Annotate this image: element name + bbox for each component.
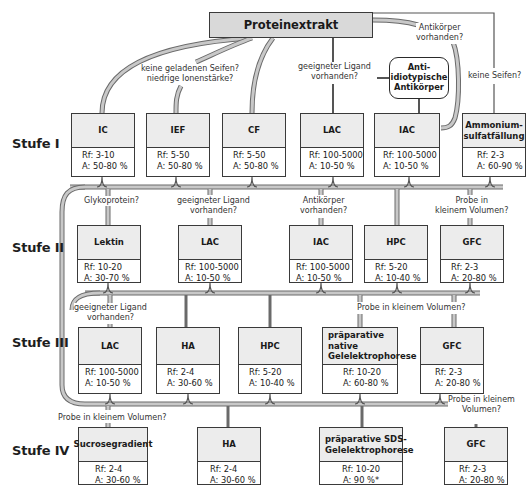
node-title: LAC <box>79 328 141 365</box>
node-rf: Rf: 100-5000 <box>383 150 439 161</box>
node-s4-ha: HA Rf: 2-4A: 30-60 % <box>197 427 261 485</box>
node-s4-gfc: GFC Rf: 2-3A: 20-80 % <box>444 427 508 485</box>
node-rf: Rf: 2-3 <box>435 367 483 378</box>
node-s1-lac: LAC Rf: 100-5000A: 10-50 % <box>300 113 364 177</box>
node-s1-ic: IC Rf: 3-10A: 50-80 % <box>71 113 135 177</box>
node-title: IAC <box>375 114 439 148</box>
node-title: IAC <box>290 226 352 260</box>
node-title: LAC <box>179 226 241 260</box>
node-rf: Rf: 100-5000 <box>185 262 241 273</box>
node-a: A: 20-80 % <box>435 378 483 389</box>
condition-lektin: Glykoprotein? <box>84 196 139 206</box>
stage-label-1: Stufe I <box>12 136 59 151</box>
condition-lac-stage3: geeigneter Ligandvorhanden? <box>74 303 147 324</box>
node-a: A: 10-40 % <box>375 273 427 284</box>
node-a: A: 10-40 % <box>249 378 301 389</box>
node-rf: Rf: 5-20 <box>249 367 301 378</box>
side-node-anti-idiotypic-antibodies: Anti- idiotypische Antikörper <box>389 57 449 99</box>
node-s2-hpc: HPC Rf: 5-20A: 10-40 % <box>364 225 428 283</box>
node-s2-lac: LAC Rf: 100-5000A: 10-50 % <box>178 225 242 283</box>
condition-ief: keine geladenen Seifen?niedrige Ionenstä… <box>141 64 239 85</box>
node-rf: Rf: 2-4 <box>95 464 147 475</box>
node-title: GFC <box>421 328 483 365</box>
node-rf: Rf: 2-4 <box>167 367 219 378</box>
node-title: IC <box>72 114 134 148</box>
condition-lac-stage1: geeigneter Ligandvorhanden? <box>298 62 371 83</box>
node-s4-sucrose-gradient: Sucrosegradient Rf: 2-4A: 30-60 % <box>78 427 148 485</box>
node-s3-ha: HA Rf: 2-4A: 30-60 % <box>156 327 220 394</box>
node-rf: Rf: 10-20 <box>320 464 402 475</box>
node-s1-cf: CF Rf: 5-50A: 50-80 % <box>222 113 286 177</box>
node-a: A: 60-90 % <box>477 161 525 172</box>
condition-native-gel: Probe in kleinem Volumen? <box>357 303 465 313</box>
purification-flow-diagram: .pipe { fill: none; stroke: #6a6a6a; str… <box>0 0 528 496</box>
node-s1-iac: IAC Rf: 100-5000A: 10-50 % <box>374 113 440 177</box>
node-s3-hpc: HPC Rf: 5-20A: 10-40 % <box>238 327 302 394</box>
node-title: Sucrosegradient <box>79 428 147 462</box>
node-a: A: 20-80 % <box>459 475 507 486</box>
node-a: A: 30-60 % <box>167 378 219 389</box>
node-a: A: 60-80 % <box>343 378 397 389</box>
condition-sucrose: Probe in kleinem Volumen? <box>58 413 166 423</box>
node-a: A: 90 %* <box>320 475 402 486</box>
node-rf: Rf: 100-5000 <box>85 367 141 378</box>
condition-iac-stage1: Antikörpervorhanden? <box>416 23 463 44</box>
node-a: A: 10-50 % <box>309 161 363 172</box>
node-rf: Rf: 10-20 <box>84 262 140 273</box>
node-s2-iac: IAC Rf: 100-5000A: 10-50 % <box>289 225 353 283</box>
node-title: präparative SDS-Gelelektrophorese <box>320 428 402 462</box>
stage-label-4: Stufe IV <box>12 443 69 458</box>
node-s2-gfc: GFC Rf: 2-3A: 20-80 % <box>440 225 504 283</box>
node-rf: Rf: 10-20 <box>343 367 397 378</box>
node-title: HA <box>198 428 260 462</box>
root-node-proteinextrakt: Proteinextrakt <box>209 12 373 38</box>
node-rf: Rf: 100-5000 <box>309 150 363 161</box>
node-s3-lac: LAC Rf: 100-5000A: 10-50 % <box>78 327 142 394</box>
node-title: GFC <box>441 226 503 260</box>
node-a: A: 10-50 % <box>185 273 241 284</box>
node-rf: Rf: 2-4 <box>210 464 260 475</box>
node-title: IEF <box>147 114 209 148</box>
node-rf: Rf: 5-50 <box>157 150 209 161</box>
node-a: A: 30-70 % <box>84 273 140 284</box>
node-rf: Rf: 2-3 <box>451 262 503 273</box>
node-s1-ief: IEF Rf: 5-50A: 50-80 % <box>146 113 210 177</box>
node-title: LAC <box>301 114 363 148</box>
node-title: GFC <box>445 428 507 462</box>
node-a: A: 20-80 % <box>451 273 503 284</box>
condition-gfc-stage2: Probe inkleinem Volumen? <box>435 196 508 217</box>
condition-iac-stage2: Antikörpervorhanden? <box>300 196 347 217</box>
node-a: A: 30-60 % <box>95 475 147 486</box>
node-title: präparative nativeGelelektrophorese <box>323 328 397 365</box>
node-rf: Rf: 100-5000 <box>296 262 352 273</box>
node-s3-native-gel: präparative nativeGelelektrophorese Rf: … <box>322 327 398 394</box>
node-s4-sds-gel: präparative SDS-Gelelektrophorese Rf: 10… <box>319 427 403 485</box>
node-rf: Rf: 5-50 <box>233 150 285 161</box>
condition-gfc-stage4: Probe in kleinemVolumen? <box>448 395 515 416</box>
node-s1-ammonium-sulfate: Ammonium-sulfatfällung Rf: 2-3A: 60-90 % <box>462 113 526 177</box>
node-title: CF <box>223 114 285 148</box>
node-a: A: 50-80 % <box>233 161 285 172</box>
node-s3-gfc: GFC Rf: 2-3A: 20-80 % <box>420 327 484 394</box>
node-title: Lektin <box>78 226 140 260</box>
node-title: Ammonium-sulfatfällung <box>463 114 525 148</box>
condition-ammonium: keine Seifen? <box>468 71 521 81</box>
condition-lac-stage2: geeigneter Ligandvorhanden? <box>177 196 250 217</box>
stage-label-2: Stufe II <box>12 240 64 255</box>
node-a: A: 30-60 % <box>210 475 260 486</box>
node-title: HPC <box>239 328 301 365</box>
node-a: A: 10-50 % <box>85 378 141 389</box>
node-title: HPC <box>365 226 427 260</box>
node-rf: Rf: 2-3 <box>459 464 507 475</box>
node-rf: Rf: 5-20 <box>375 262 427 273</box>
side-node-line: Antikörper <box>391 83 448 93</box>
node-rf: Rf: 3-10 <box>82 150 134 161</box>
node-rf: Rf: 2-3 <box>477 150 525 161</box>
node-s2-lektin: Lektin Rf: 10-20A: 30-70 % <box>77 225 141 283</box>
stage-label-3: Stufe III <box>12 335 69 350</box>
node-a: A: 50-80 % <box>157 161 209 172</box>
node-title: HA <box>157 328 219 365</box>
node-a: A: 10-50 % <box>296 273 352 284</box>
node-a: A: 50-80 % <box>82 161 134 172</box>
node-a: A: 10-50 % <box>383 161 439 172</box>
